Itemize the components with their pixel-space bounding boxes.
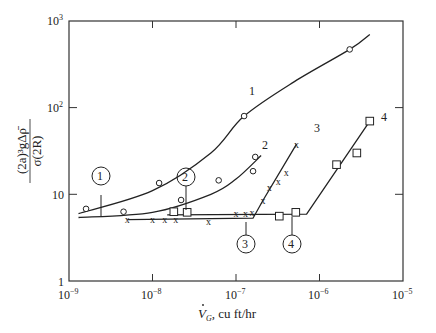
x-tick-1e-5: 10−5: [392, 287, 413, 302]
data-point-4-1: [183, 209, 191, 217]
dot-accent: [202, 304, 204, 306]
svg-text:2: 2: [182, 170, 188, 184]
x-tick-1e-7: 10−7: [225, 287, 246, 302]
svg-text:σ(2R): σ(2R): [29, 136, 44, 167]
data-point-4-4: [333, 161, 341, 169]
y-tick-1: 1: [58, 275, 64, 289]
svg-text:(2a)³gΔρ̄: (2a)³gΔρ̄: [14, 126, 29, 174]
data-point-3-4: x: [206, 216, 211, 227]
data-point-3-0: x: [125, 214, 130, 225]
y-tick-10: 10: [52, 188, 64, 202]
data-point-3-8: x: [260, 195, 265, 206]
chart-figure: 103 102 10 1 10−9 10−8 10−7 10−6 10−5 VG…: [0, 0, 436, 333]
curve-label-3: 3: [314, 121, 320, 135]
data-point-1-0: [83, 206, 89, 212]
data-point-3-12: x: [294, 139, 299, 150]
data-point-3-2: x: [162, 214, 167, 225]
data-point-4-3: [292, 209, 300, 217]
data-point-1-3: [216, 178, 222, 184]
x-tick-labels: 10−9 10−8 10−7 10−6 10−5: [58, 287, 413, 302]
y-tick-labels: 103 102 10 1: [47, 13, 64, 289]
data-point-4-5: [353, 149, 361, 157]
data-point-3-5: x: [234, 208, 239, 219]
data-point-2-1: [250, 168, 256, 174]
x-tick-1e-9: 10−9: [58, 287, 79, 302]
data-point-2-0: [178, 197, 184, 203]
y-tick-100: 102: [47, 100, 63, 115]
curve-label-4: 4: [381, 110, 387, 124]
x-axis-title: VG, cu ft/hr: [198, 304, 257, 323]
svg-text:3: 3: [242, 237, 248, 251]
x-tick-1e-8: 10−8: [141, 287, 162, 302]
data-point-1-4: [241, 113, 247, 119]
curve-label-2: 2: [262, 138, 268, 152]
y-axis-title: (2a)³gΔρ̄ σ(2R): [14, 119, 44, 183]
data-point-1-5: [347, 47, 353, 53]
data-point-3-1: x: [150, 214, 155, 225]
y-tick-1000: 103: [47, 13, 63, 28]
circled-annotation-text: 1 2 3 4: [97, 169, 294, 251]
x-axis-ticks: [153, 21, 320, 281]
data-point-4-6: [366, 117, 374, 125]
data-point-3-7: x: [249, 207, 254, 218]
svg-text:VG, cu ft/hr: VG, cu ft/hr: [198, 306, 257, 323]
x-tick-1e-6: 10−6: [308, 287, 329, 302]
data-point-1-2: [156, 180, 162, 186]
data-point-2-2: [252, 154, 258, 160]
data-point-3-10: x: [276, 176, 281, 187]
svg-text:4: 4: [288, 237, 294, 251]
curve-1: [79, 34, 370, 213]
data-point-4-2: [275, 212, 283, 220]
data-point-4-0: [170, 208, 178, 216]
data-point-3-9: x: [267, 182, 272, 193]
data-point-3-6: x: [243, 208, 248, 219]
data-point-3-11: x: [284, 167, 289, 178]
svg-text:1: 1: [97, 169, 103, 183]
curves: [79, 34, 370, 219]
curve-label-1: 1: [249, 84, 255, 98]
